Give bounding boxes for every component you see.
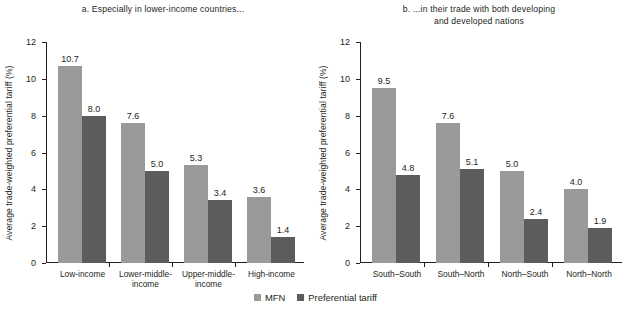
panel-b-value-mfn-4: 4.0 xyxy=(570,177,583,187)
panel-a-ytick-2: 2 xyxy=(31,221,36,231)
panel-b-group-south-south: 9.5 4.8 South–South xyxy=(370,42,424,263)
panel-b-xlabel-2: South–North xyxy=(425,269,497,279)
panel-b-bar-mfn-3: 5.0 xyxy=(500,171,524,263)
panel-b-ytick-4: 4 xyxy=(345,184,350,194)
panel-a-ytick-8: 8 xyxy=(31,111,36,121)
panel-a-value-mfn-1: 10.7 xyxy=(61,54,79,64)
panel-b-plot-area: 12 10 8 6 4 2 0 9.5 4.8 South–Sou xyxy=(360,42,622,263)
panel-a-value-pref-2: 5.0 xyxy=(151,159,164,169)
panel-a-xtick-3 xyxy=(235,263,236,267)
panel-a-y-axis-label-text: Average trade-weighted preferential tari… xyxy=(4,65,14,240)
panel-a-group-upper-middle-income: 5.3 3.4 Upper-middle- income xyxy=(182,42,235,263)
panel-a-value-mfn-3: 5.3 xyxy=(190,153,203,163)
panel-b-ytick-12: 12 xyxy=(340,37,350,47)
panel-a-title: a. Especially in lower-income countries.… xyxy=(18,4,308,16)
panel-b-y-axis-line xyxy=(360,42,361,263)
panel-a: a. Especially in lower-income countries.… xyxy=(0,0,315,290)
panel-a-xlabel-2-line1: Lower-middle- xyxy=(110,269,182,279)
panel-a-bar-pref-3: 3.4 xyxy=(208,200,232,263)
panel-b-title-line1: b. ...in their trade with both developin… xyxy=(334,4,624,16)
panel-a-bar-mfn-2: 7.6 xyxy=(121,123,145,263)
panel-b-ytick-2: 2 xyxy=(345,221,350,231)
panel-a-ytick-4: 4 xyxy=(31,184,36,194)
panel-b-xtick-2 xyxy=(488,263,489,267)
panel-b-xlabel-3-line1: North–South xyxy=(489,269,561,279)
panel-b-xtick-3 xyxy=(552,263,553,267)
panel-b-value-pref-2: 5.1 xyxy=(466,157,479,167)
panel-b-bar-pref-2: 5.1 xyxy=(460,169,484,263)
panel-a-bar-pref-1: 8.0 xyxy=(82,116,106,263)
panel-a-ytick-12: 12 xyxy=(26,37,36,47)
panel-b-bar-pref-4: 1.9 xyxy=(588,228,612,263)
panel-b-value-pref-3: 2.4 xyxy=(530,207,543,217)
panel-a-y-axis-label: Average trade-weighted preferential tari… xyxy=(2,42,16,263)
panel-b-xlabel-4-line1: North–North xyxy=(553,269,625,279)
panel-b-value-mfn-2: 7.6 xyxy=(442,111,455,121)
panel-b-group-north-north: 4.0 1.9 North–North xyxy=(562,42,616,263)
panel-b-ytick-6: 6 xyxy=(345,148,350,158)
panel-a-group-lower-middle-income: 7.6 5.0 Lower-middle- income xyxy=(119,42,172,263)
panel-a-bar-pref-2: 5.0 xyxy=(145,171,169,263)
panel-b-xlabel-4: North–North xyxy=(553,269,625,279)
panel-b-bar-mfn-1: 9.5 xyxy=(372,88,396,263)
panel-a-xlabel-3-line1: Upper-middle- xyxy=(173,269,245,279)
panel-a-bar-mfn-3: 5.3 xyxy=(184,165,208,263)
panel-b-title: b. ...in their trade with both developin… xyxy=(334,4,624,27)
panel-a-ytick-10: 10 xyxy=(26,74,36,84)
panel-a-xlabel-3-line2: income xyxy=(173,279,245,289)
panel-a-value-mfn-2: 7.6 xyxy=(127,111,140,121)
legend-item-preferential-tariff: Preferential tariff xyxy=(297,292,377,303)
panel-a-xlabel-3: Upper-middle- income xyxy=(173,269,245,289)
panel-b-group-south-north: 7.6 5.1 South–North xyxy=(434,42,488,263)
panel-b-y-axis-label: Average trade-weighted preferential tari… xyxy=(316,42,330,263)
panel-a-xlabel-1-line1: Low-income xyxy=(47,269,119,279)
panel-b-bar-mfn-4: 4.0 xyxy=(564,189,588,263)
figure-two-panel-bar-chart: a. Especially in lower-income countries.… xyxy=(0,0,631,319)
panel-a-ytick-0: 0 xyxy=(31,258,36,268)
panel-a-xlabel-4-line1: High-income xyxy=(236,269,308,279)
panel-b-xtick-1 xyxy=(424,263,425,267)
panel-a-value-pref-3: 3.4 xyxy=(214,188,227,198)
legend-item-mfn: MFN xyxy=(254,292,285,303)
legend-label-mfn: MFN xyxy=(265,292,285,303)
panel-b-ytick-8: 8 xyxy=(345,111,350,121)
panel-b: b. ...in their trade with both developin… xyxy=(316,0,631,290)
panel-b-group-north-south: 5.0 2.4 North–South xyxy=(498,42,552,263)
panel-b-value-pref-1: 4.8 xyxy=(402,163,415,173)
panel-b-bar-pref-1: 4.8 xyxy=(396,175,420,263)
panel-b-bar-mfn-2: 7.6 xyxy=(436,123,460,263)
panel-a-bar-mfn-4: 3.6 xyxy=(247,197,271,263)
panel-a-xlabel-2: Lower-middle- income xyxy=(110,269,182,289)
legend-label-preferential: Preferential tariff xyxy=(308,292,377,303)
panel-b-ytick-0: 0 xyxy=(345,258,350,268)
panel-a-value-mfn-4: 3.6 xyxy=(253,185,266,195)
panel-b-value-mfn-3: 5.0 xyxy=(506,159,519,169)
panel-b-y-axis-label-text: Average trade-weighted preferential tari… xyxy=(318,65,328,240)
panel-a-xtick-1 xyxy=(109,263,110,267)
panel-a-value-pref-4: 1.4 xyxy=(277,225,290,235)
panel-a-plot-area: 12 10 8 6 4 2 0 10.7 8.0 Low-inco xyxy=(46,42,304,263)
panel-b-xlabel-1: South–South xyxy=(361,269,433,279)
panel-a-value-pref-1: 8.0 xyxy=(88,104,101,114)
legend-swatch-mfn-icon xyxy=(254,294,261,301)
panel-a-xlabel-4: High-income xyxy=(236,269,308,279)
panel-a-title-line1: a. Especially in lower-income countries.… xyxy=(18,4,308,16)
panel-a-xlabel-2-line2: income xyxy=(110,279,182,289)
panel-b-xlabel-2-line1: South–North xyxy=(425,269,497,279)
panel-b-title-line2: and developed nations xyxy=(334,16,624,28)
panel-b-xlabel-3: North–South xyxy=(489,269,561,279)
legend-swatch-preferential-icon xyxy=(297,294,304,301)
panel-a-bar-mfn-1: 10.7 xyxy=(58,66,82,263)
panel-a-xtick-2 xyxy=(172,263,173,267)
panel-b-bar-pref-3: 2.4 xyxy=(524,219,548,263)
panel-a-group-high-income: 3.6 1.4 High-income xyxy=(245,42,298,263)
panel-b-value-mfn-1: 9.5 xyxy=(378,76,391,86)
panel-b-value-pref-4: 1.9 xyxy=(594,216,607,226)
chart-legend: MFN Preferential tariff xyxy=(0,292,631,303)
panel-a-bar-pref-4: 1.4 xyxy=(271,237,295,263)
panel-a-ytick-6: 6 xyxy=(31,148,36,158)
panel-a-group-low-income: 10.7 8.0 Low-income xyxy=(56,42,109,263)
panel-a-y-axis-line xyxy=(46,42,47,263)
panel-b-ytick-10: 10 xyxy=(340,74,350,84)
panel-a-xlabel-1: Low-income xyxy=(47,269,119,279)
